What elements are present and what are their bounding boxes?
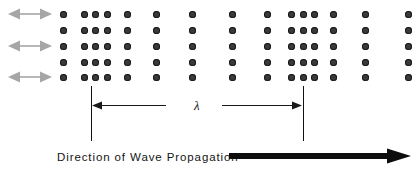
particle-dot — [92, 74, 99, 81]
particle-dot — [362, 11, 369, 18]
particle-dot — [104, 59, 111, 66]
particle-dot — [264, 59, 271, 66]
particle-dot — [405, 59, 412, 66]
longitudinal-wave-diagram: λ Direction of Wave Propagation — [0, 0, 419, 177]
particle-dot — [264, 74, 271, 81]
particle-dot — [311, 59, 318, 66]
particle-dot — [229, 74, 236, 81]
particle-dot — [300, 11, 307, 18]
particle-dot — [81, 43, 88, 50]
particle-dot — [311, 74, 318, 81]
particle-dot — [60, 74, 67, 81]
particle-dot — [189, 59, 196, 66]
wavelength-arrow-left — [92, 100, 166, 111]
wavelength-arrow-right — [222, 100, 302, 111]
particle-dot — [104, 43, 111, 50]
particle-dot — [300, 27, 307, 34]
particle-dot — [362, 59, 369, 66]
particle-dot — [362, 27, 369, 34]
particle-dot — [124, 59, 131, 66]
particle-dot — [362, 43, 369, 50]
propagation-direction-arrow — [229, 147, 411, 165]
particle-dot — [311, 43, 318, 50]
particle-dot — [264, 43, 271, 50]
particle-dot — [124, 11, 131, 18]
particle-dot — [288, 43, 295, 50]
particle-dot — [153, 27, 160, 34]
particle-dot — [81, 27, 88, 34]
particle-dot — [405, 27, 412, 34]
particle-dot — [330, 43, 337, 50]
particle-dot — [311, 27, 318, 34]
particle-dot — [92, 27, 99, 34]
particle-dot — [60, 59, 67, 66]
particle-dot — [104, 27, 111, 34]
particle-dot — [153, 11, 160, 18]
particle-dot — [81, 11, 88, 18]
oscillation-arrow — [8, 70, 52, 84]
particle-dot — [405, 74, 412, 81]
particle-dot — [264, 27, 271, 34]
particle-dot — [288, 27, 295, 34]
oscillation-arrow — [8, 39, 52, 53]
particle-dot — [60, 43, 67, 50]
particle-dot — [300, 74, 307, 81]
propagation-caption: Direction of Wave Propagation — [57, 152, 239, 164]
particle-dot — [405, 43, 412, 50]
particle-dot — [104, 11, 111, 18]
particle-dot — [264, 11, 271, 18]
particle-dot — [153, 59, 160, 66]
particle-dot — [124, 43, 131, 50]
wavelength-reference-line-left — [91, 86, 92, 141]
particle-dot — [81, 74, 88, 81]
particle-dot — [153, 43, 160, 50]
oscillation-arrow — [8, 7, 52, 21]
particle-dot — [189, 27, 196, 34]
particle-dot — [92, 11, 99, 18]
particle-dot — [124, 74, 131, 81]
particle-dot — [229, 43, 236, 50]
particle-dot — [300, 59, 307, 66]
particle-dot — [189, 11, 196, 18]
particle-dot — [60, 27, 67, 34]
particle-dot — [92, 59, 99, 66]
particle-dot — [311, 11, 318, 18]
particle-dot — [288, 59, 295, 66]
particle-dot — [330, 11, 337, 18]
particle-dot — [330, 59, 337, 66]
particle-dot — [189, 43, 196, 50]
particle-dot — [330, 27, 337, 34]
particle-dot — [229, 59, 236, 66]
particle-dot — [153, 74, 160, 81]
wavelength-symbol-label: λ — [194, 99, 200, 112]
particle-dot — [330, 74, 337, 81]
particle-dot — [288, 74, 295, 81]
particle-dot — [60, 11, 67, 18]
particle-dot — [124, 27, 131, 34]
particle-dot — [405, 11, 412, 18]
particle-dot — [300, 43, 307, 50]
particle-dot — [362, 74, 369, 81]
particle-dot — [229, 27, 236, 34]
particle-dot — [92, 43, 99, 50]
wavelength-reference-line-right — [303, 86, 304, 141]
particle-dot — [189, 74, 196, 81]
particle-dot — [288, 11, 295, 18]
particle-dot — [81, 59, 88, 66]
particle-dot — [104, 74, 111, 81]
particle-dot — [229, 11, 236, 18]
